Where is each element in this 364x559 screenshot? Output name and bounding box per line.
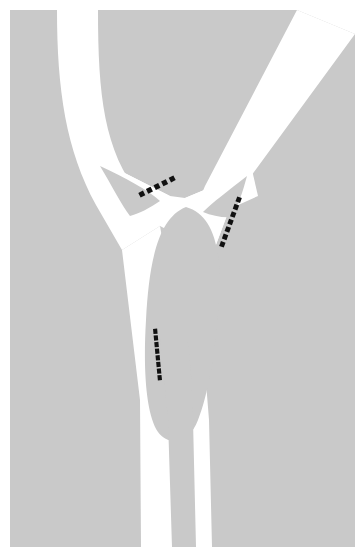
junction-diagram-canvas <box>0 0 364 559</box>
stop-line-dash <box>157 375 162 381</box>
stop-line-dash <box>155 348 160 354</box>
stop-line-dash <box>153 329 158 335</box>
stop-line-dash <box>156 355 161 361</box>
stop-line-dash <box>154 335 159 341</box>
stop-line-dash <box>157 368 162 374</box>
stop-line-dash <box>154 342 159 348</box>
junction-diagram-root <box>0 0 364 559</box>
stop-line-dash <box>156 362 161 368</box>
